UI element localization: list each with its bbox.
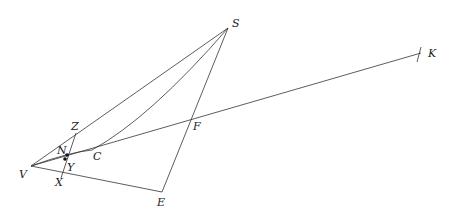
label-z: Z [70,120,79,133]
label-v: V [19,168,28,181]
tick-k [417,47,421,62]
label-k: K [427,47,437,60]
geometry-diagram: S K Z N Y C F V X E [0,0,456,217]
label-e: E [156,196,165,209]
line-se [162,28,228,192]
line-vk [31,53,421,166]
label-c: C [93,150,102,163]
label-x: X [54,176,64,189]
line-ve [31,166,162,192]
label-s: S [232,17,240,30]
label-f: F [192,120,201,133]
label-n: N [56,144,67,157]
label-y: Y [67,161,76,174]
